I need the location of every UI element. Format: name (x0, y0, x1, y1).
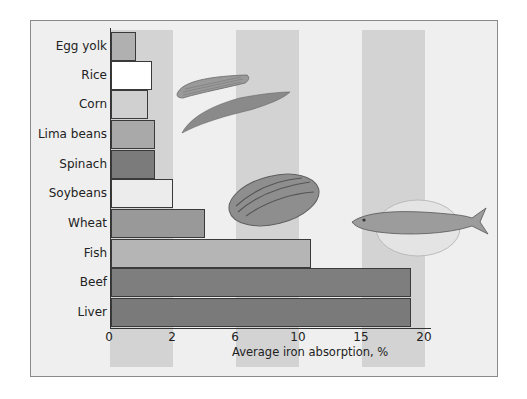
x-tick-label: 20 (416, 330, 431, 344)
category-label: Fish (17, 239, 107, 268)
x-tick-label: 0 (105, 330, 113, 344)
category-label: Corn (17, 90, 107, 119)
bar-egg-yolk (111, 32, 136, 61)
category-label: Rice (17, 61, 107, 90)
bread-loaf-illustration (226, 172, 322, 228)
bar-beef (111, 268, 411, 297)
x-tick-label: 15 (353, 330, 368, 344)
bar-soybeans (111, 179, 173, 208)
category-label: Liver (17, 298, 107, 327)
category-label: Lima beans (17, 120, 107, 149)
bar-spinach (111, 150, 155, 179)
bar-lima-beans (111, 120, 155, 149)
x-axis (110, 328, 431, 329)
bar-corn (111, 90, 148, 119)
category-label: Soybeans (17, 179, 107, 208)
bar-fish (111, 239, 311, 268)
category-label: Egg yolk (17, 32, 107, 61)
x-tick-label: 10 (290, 330, 305, 344)
category-label: Beef (17, 268, 107, 297)
bar-wheat (111, 209, 205, 238)
bar-liver (111, 298, 411, 327)
x-tick-label: 6 (231, 330, 239, 344)
category-label: Spinach (17, 150, 107, 179)
fish-on-plate-illustration (348, 190, 490, 260)
category-label: Wheat (17, 209, 107, 238)
x-tick-label: 2 (168, 330, 176, 344)
x-axis-title: Average iron absorption, % (232, 345, 388, 359)
pepper-pod-illustration (180, 88, 292, 136)
bar-rice (111, 61, 152, 90)
